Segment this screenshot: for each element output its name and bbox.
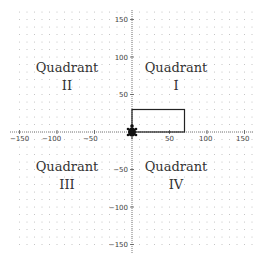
x-tick-label: 50 (165, 135, 174, 143)
quadrant-numeral-4: IV (169, 177, 184, 192)
x-tick-label: −100 (42, 135, 61, 143)
quadrant-numeral-2: II (62, 78, 72, 93)
x-tick-label: −50 (83, 135, 98, 143)
quadrant-numeral-3: III (59, 177, 74, 192)
x-tick-label: 100 (199, 135, 212, 143)
y-tick-label: −150 (109, 241, 128, 249)
y-tick-label: 150 (115, 16, 128, 24)
y-tick-label: −50 (113, 166, 128, 174)
quadrant-label-3: Quadrant (36, 159, 99, 174)
y-tick-label: −100 (109, 204, 128, 212)
quadrant-numeral-1: I (173, 78, 178, 93)
y-tick-label: 50 (119, 91, 128, 99)
x-tick-label: −150 (10, 135, 29, 143)
quadrant-label-4: Quadrant (145, 159, 208, 174)
x-tick-label: 150 (236, 135, 249, 143)
quadrant-label-1: Quadrant (145, 60, 208, 75)
y-tick-label: 100 (115, 54, 128, 62)
turtle-icon (127, 124, 138, 138)
quadrant-label-2: Quadrant (36, 60, 99, 75)
coordinate-plane: −150 −100 −50 50 100 150 150 100 50 −50 … (0, 0, 264, 264)
drawn-rectangle (132, 110, 185, 133)
